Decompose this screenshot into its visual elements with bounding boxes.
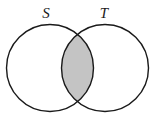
set-t-label: T [100, 5, 110, 21]
venn-diagram: S T [0, 0, 154, 117]
set-s-label: S [42, 5, 50, 21]
